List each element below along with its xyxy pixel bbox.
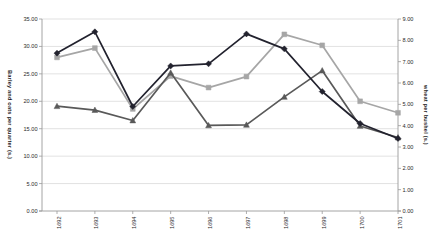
left-axis-tick-label: 25.00 [24, 71, 38, 77]
x-axis-tick-label: 1701 [397, 217, 403, 229]
series-marker-square [396, 110, 401, 115]
series-marker-square [92, 46, 97, 51]
x-axis-tick-label: 1692 [56, 217, 62, 229]
x-axis-tick-label: 1697 [245, 217, 251, 229]
series-marker-square [320, 43, 325, 48]
series-marker-square [358, 99, 363, 104]
right-axis-title: wheat per bushel (s.) [420, 19, 431, 211]
right-axis-tick-label: 6.00 [403, 80, 414, 86]
right-axis-tick-label: 7.00 [403, 59, 414, 65]
left-axis-tick-label: 10.00 [24, 153, 38, 159]
right-axis-tick-label: 8.00 [403, 37, 414, 43]
series-marker-square [244, 74, 249, 79]
plot-area: 0.005.0010.0015.0020.0025.0030.0035.000.… [0, 0, 439, 249]
left-axis-tick-label: 20.00 [24, 98, 38, 104]
left-axis-tick-label: 5.00 [27, 181, 38, 187]
series-line-diamond [57, 32, 398, 139]
x-axis-tick-label: 1696 [207, 217, 213, 229]
grain-prices-line-chart: Barley and oats per quarter (s.) 0.005.0… [0, 0, 439, 249]
left-axis-tick-label: 30.00 [24, 43, 38, 49]
right-axis-tick-label: 2.00 [403, 165, 414, 171]
x-axis-tick-label: 1700 [359, 217, 365, 229]
x-axis-tick-label: 1698 [283, 217, 289, 229]
left-axis-tick-label: 0.00 [27, 208, 38, 214]
series-marker-square [206, 85, 211, 90]
series-marker-triangle [168, 70, 174, 75]
left-axis-tick-label: 15.00 [24, 126, 38, 132]
x-axis-tick-label: 1694 [131, 217, 137, 229]
left-axis-tick-label: 35.00 [24, 16, 38, 22]
right-axis-tick-label: 3.00 [403, 144, 414, 150]
x-axis-tick-label: 1693 [93, 217, 99, 229]
right-axis-tick-label: 1.00 [403, 187, 414, 193]
series-marker-triangle [319, 68, 325, 73]
right-axis-tick-label: 9.00 [403, 16, 414, 22]
right-axis-tick-label: 4.00 [403, 123, 414, 129]
right-axis-tick-label: 0.00 [403, 208, 414, 214]
right-axis-tick-label: 5.00 [403, 101, 414, 107]
series-marker-square [282, 32, 287, 37]
x-axis-tick-label: 1695 [169, 217, 175, 229]
x-axis-tick-label: 1699 [321, 217, 327, 229]
